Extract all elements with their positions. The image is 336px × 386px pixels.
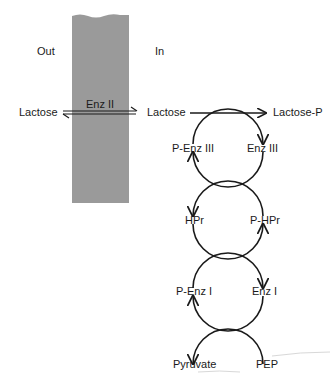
p-hpr-label: P-HPr <box>250 215 280 226</box>
lactose-in-label: Lactose <box>147 107 186 118</box>
pyruvate-label: Pyruvate <box>173 359 216 370</box>
enz3-label: Enz III <box>247 143 278 154</box>
enz1-label: Enz I <box>252 286 277 297</box>
lactose-out-label: Lactose <box>19 107 58 118</box>
p-enz3-label: P-Enz III <box>172 143 214 154</box>
enz2-label: Enz II <box>86 99 114 110</box>
lactose-p-label: Lactose-P <box>273 107 323 118</box>
scan-mark <box>198 371 240 372</box>
hpr-label: HPr <box>185 215 204 226</box>
p-enz1-label: P-Enz I <box>176 286 212 297</box>
pts-diagram <box>0 0 336 386</box>
scan-mark <box>272 352 330 356</box>
pep-label: PEP <box>256 359 278 370</box>
inside-label: In <box>155 46 164 57</box>
outside-label: Out <box>37 46 55 57</box>
